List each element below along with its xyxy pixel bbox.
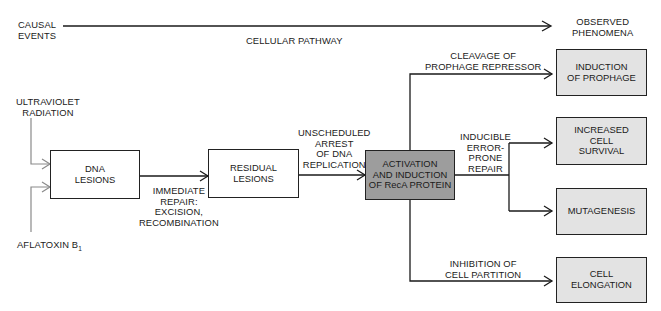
edge-label-immediate-repair: IMMEDIATE REPAIR: EXCISION, RECOMBINATIO… [139, 186, 219, 228]
aflatoxin-label: AFLATOXIN B [17, 239, 78, 250]
causal-events-label: CAUSAL EVENTS [18, 20, 56, 41]
node-mutagenesis: MUTAGENESIS [556, 188, 647, 235]
cellular-pathway-label: CELLULAR PATHWAY [246, 36, 343, 47]
node-reca-activation: ACTIVATION AND INDUCTION OF RecA PROTEIN [365, 150, 455, 200]
timeline-arrow [63, 21, 551, 31]
node-dna-lesions: DNA LESIONS [50, 150, 140, 199]
arrest-arrow [299, 170, 365, 180]
aflatoxin-subscript: 1 [78, 245, 82, 252]
observed-phenomena-label: OBSERVED PHENOMENA [572, 17, 633, 38]
node-cell-elongation: CELL ELONGATION [556, 257, 647, 303]
edge-label-unscheduled-arrest: UNSCHEDULED ARREST OF DNA REPLICATION [298, 128, 370, 170]
immediate-repair-arrow [140, 171, 208, 181]
cause-ultraviolet-radiation: ULTRAVIOLET RADIATION [16, 97, 80, 118]
node-residual-lesions: RESIDUAL LESIONS [208, 149, 299, 198]
edge-label-cleavage: CLEAVAGE OF PROPHAGE REPRESSOR [425, 51, 541, 72]
node-increased-cell-survival: INCREASED CELL SURVIVAL [556, 117, 647, 165]
aflatoxin-connector [31, 182, 50, 232]
edge-label-error-prone-repair: INDUCIBLE ERROR- PRONE REPAIR [460, 132, 511, 174]
uv-connector [31, 118, 50, 169]
cause-aflatoxin: AFLATOXIN B1 [17, 240, 82, 254]
edge-label-inhibition: INHIBITION OF CELL PARTITION [445, 259, 521, 280]
node-induction-of-prophage: INDUCTION OF PROPHAGE [556, 49, 647, 96]
